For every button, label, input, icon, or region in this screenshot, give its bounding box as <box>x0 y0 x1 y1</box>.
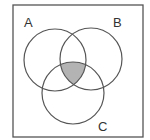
set-a-label: A <box>24 15 33 30</box>
set-b-label: B <box>113 15 122 30</box>
venn-diagram: A B C <box>0 0 150 140</box>
set-c-label: C <box>98 119 107 134</box>
